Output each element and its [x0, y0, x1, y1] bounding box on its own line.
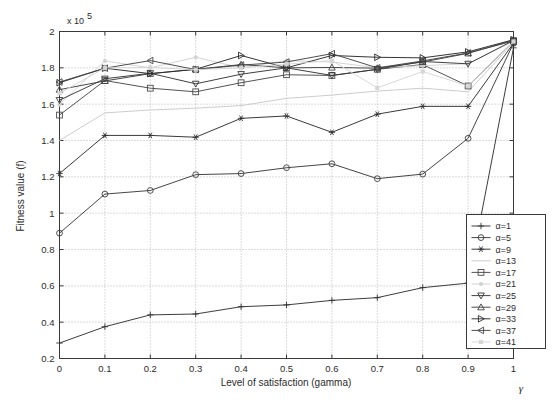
data-point-marker [103, 59, 106, 62]
y-tick-label: 1 [49, 208, 54, 219]
data-point-marker [421, 70, 424, 73]
figure-container: 0.20.40.60.811.21.41.61.82 00.10.20.30.4… [0, 0, 556, 408]
y-tick-label: 0.6 [41, 280, 54, 291]
data-point-marker [285, 63, 288, 66]
chart-legend[interactable]: α=1α=5α=9α=13α=17α=21α=25α=29α=33α=37α=4… [467, 215, 546, 349]
series-6 [58, 39, 515, 106]
y-tick-label: 0.2 [41, 353, 54, 364]
legend-item-label: α=9 [496, 245, 511, 255]
fitness-vs-satisfaction-chart: 0.20.40.60.811.21.41.61.82 00.10.20.30.4… [0, 0, 556, 408]
x-tick-label: 0.2 [144, 363, 157, 374]
y-axis-title: Fitness value (f) [15, 160, 26, 231]
y-axis-multiplier-exponent: 5 [87, 11, 92, 21]
data-point-marker [58, 92, 61, 95]
x-tick-label: 0 [57, 363, 62, 374]
x-tick-label: 0.6 [325, 363, 338, 374]
x-tick-label: 0.9 [461, 363, 474, 374]
data-point-marker [149, 66, 152, 69]
legend-item-label: α=29 [496, 303, 516, 313]
data-point-marker [479, 282, 482, 285]
x-tick-label: 0.3 [189, 363, 202, 374]
y-tick-label: 1.6 [41, 99, 54, 110]
y-tick-label: 1.4 [41, 135, 54, 146]
data-point-marker [194, 56, 197, 59]
y-tick-label: 2 [49, 26, 54, 37]
x-tick-label: 0.1 [98, 363, 111, 374]
x-tick-label: 0.8 [416, 363, 429, 374]
legend-item-label: α=21 [496, 279, 516, 289]
y-tick-label: 0.8 [41, 244, 54, 255]
data-point-marker [376, 86, 379, 89]
y-tick-label: 1.8 [41, 62, 54, 73]
legend-item-label: α=5 [496, 233, 511, 243]
data-point-marker [330, 59, 333, 62]
data-point-marker [512, 40, 515, 43]
legend-item-label: α=33 [496, 314, 516, 324]
x-tick-label: 1 [511, 363, 516, 374]
y-axis-multiplier: x 10 [67, 16, 84, 26]
data-point-marker [103, 66, 106, 69]
data-point-marker [467, 84, 470, 87]
x-tick-label: 0.7 [371, 363, 384, 374]
gamma-symbol-label: γ [519, 382, 524, 394]
x-tick-label: 0.4 [234, 363, 247, 374]
y-tick-label: 1.2 [41, 171, 54, 182]
data-point-marker [194, 68, 197, 71]
plot-frame [60, 32, 514, 359]
y-axis-tick-labels: 0.20.40.60.811.21.41.61.82 [41, 26, 54, 364]
legend-item-label: α=13 [496, 256, 516, 266]
legend-item-label: α=17 [496, 268, 516, 278]
legend-item-label: α=25 [496, 291, 516, 301]
data-point-marker [240, 66, 243, 69]
legend-item-label: α=1 [496, 221, 511, 231]
grid-lines [60, 32, 514, 359]
tick-marks [60, 32, 514, 359]
data-point-marker [479, 340, 482, 343]
legend-item-label: α=41 [496, 337, 516, 347]
x-axis-title: Level of satisfaction (gamma) [221, 377, 352, 388]
x-axis-tick-labels: 00.10.20.30.40.50.60.70.80.91 [57, 363, 516, 374]
x-tick-label: 0.5 [280, 363, 293, 374]
y-tick-label: 0.4 [41, 317, 54, 328]
legend-item-label: α=37 [496, 326, 516, 336]
